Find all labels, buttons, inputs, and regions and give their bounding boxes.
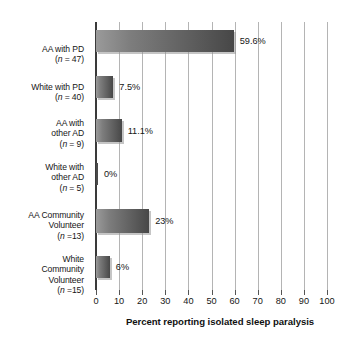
bar-value-label: 6% [116,262,129,272]
category-sample-size: (n =13) [0,231,84,241]
category-label-line: White with PD [0,82,84,92]
bar [96,30,234,52]
category-label-line: other AD [0,128,84,138]
x-axis-tick [142,290,143,295]
x-axis-tick [304,290,305,295]
x-axis-tick [188,290,189,295]
category-label: AA withother AD(n = 9) [0,118,84,149]
x-axis-tick-label: 100 [319,296,334,306]
category-sample-size: (n =15) [0,285,84,295]
bar [96,76,113,98]
x-axis-tick [165,290,166,295]
x-axis-tick-labels: 0102030405060708090100 [0,296,350,309]
gridline [119,22,120,290]
bar [96,209,149,233]
x-axis-tick-label: 80 [276,296,286,306]
category-label-line: Community [0,264,84,274]
x-axis-tick-label: 10 [114,296,124,306]
category-label-line: White [0,254,84,264]
plot-area: 59.6%7.5%11.1%0%23%6% [96,22,327,290]
bar-group: 6% [96,256,327,278]
category-label: AA CommunityVolunteer(n =13) [0,210,84,241]
category-label: White with PD(n = 40) [0,82,84,103]
x-axis-tick [258,290,259,295]
x-axis-tick-label: 70 [253,296,263,306]
gridline [304,22,305,290]
bar-value-label: 11.1% [128,126,153,136]
category-sample-size: (n = 5) [0,183,84,193]
category-label-line: AA with PD [0,44,84,54]
x-axis-tick-label: 0 [93,296,98,306]
bar [96,119,122,142]
gridline [235,22,236,290]
gridline [188,22,189,290]
category-sample-size: (n = 47) [0,54,84,64]
category-label-line: AA with [0,118,84,128]
x-axis-tick-label: 30 [160,296,170,306]
y-axis-line [95,22,97,290]
x-axis-tick [212,290,213,295]
bar [96,256,110,278]
gridline [212,22,213,290]
gridline [165,22,166,290]
bar-group: 23% [96,209,327,233]
bar-value-label: 59.6% [240,36,266,46]
x-axis-tick-label: 90 [299,296,309,306]
x-axis-tick-label: 40 [183,296,193,306]
category-label-line: Volunteer [0,275,84,285]
x-axis-tick-label: 20 [137,296,147,306]
bar-group: 11.1% [96,119,327,142]
bar-value-label: 23% [155,216,173,226]
x-axis-tick-label: 50 [206,296,216,306]
gridline [258,22,259,290]
x-axis-tick [119,290,120,295]
x-axis-title: Percent reporting isolated sleep paralys… [96,316,344,327]
x-axis-tick [327,290,328,295]
category-label: WhiteCommunityVolunteer(n =15) [0,254,84,296]
category-sample-size: (n = 9) [0,139,84,149]
x-axis-tick-label: 60 [229,296,239,306]
category-label: White withother AD(n = 5) [0,162,84,193]
bar [96,163,98,185]
bar-group: 0% [96,163,327,185]
bar-value-label: 7.5% [119,82,140,92]
gridline [142,22,143,290]
x-axis-tick [281,290,282,295]
category-label-line: White with [0,162,84,172]
category-label: AA with PD(n = 47) [0,44,84,65]
gridline [281,22,282,290]
bar-chart: AA with PD(n = 47)White with PD(n = 40)A… [0,0,350,339]
category-label-line: other AD [0,172,84,182]
bar-group: 59.6% [96,30,327,52]
bar-value-label: 0% [104,169,117,179]
x-axis-tick-marks [96,290,327,295]
x-axis-tick [96,290,97,295]
bar-group: 7.5% [96,76,327,98]
gridline [327,22,328,290]
category-axis-labels: AA with PD(n = 47)White with PD(n = 40)A… [0,22,90,290]
category-label-line: Volunteer [0,220,84,230]
category-sample-size: (n = 40) [0,92,84,102]
category-label-line: AA Community [0,210,84,220]
x-axis-tick [235,290,236,295]
